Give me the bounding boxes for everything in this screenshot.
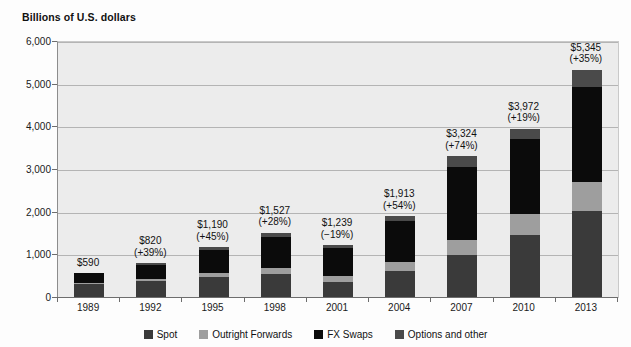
bar-growth-value: (+19%) bbox=[507, 112, 540, 124]
chart-legend: SpotOutright ForwardsFX SwapsOptions and… bbox=[0, 329, 631, 340]
bar-group[interactable] bbox=[261, 42, 291, 298]
bar-growth-value: (−19%) bbox=[321, 229, 354, 241]
x-axis-tick-mark bbox=[430, 298, 431, 302]
x-axis-tick-mark bbox=[617, 298, 618, 302]
legend-swatch-icon bbox=[395, 330, 404, 339]
x-axis-tick-label: 1995 bbox=[201, 302, 223, 313]
y-axis-tick-mark bbox=[52, 169, 57, 170]
bar-group[interactable] bbox=[510, 42, 540, 298]
x-axis-tick-mark bbox=[555, 298, 556, 302]
legend-item-label: Outright Forwards bbox=[212, 329, 292, 340]
legend-item[interactable]: Outright Forwards bbox=[199, 329, 292, 340]
bar-total-value: $1,239 bbox=[322, 217, 353, 228]
bar-value-label: $1,190(+45%) bbox=[196, 219, 229, 242]
bar-total-value: $3,972 bbox=[508, 101, 539, 112]
legend-item-label: FX Swaps bbox=[327, 329, 373, 340]
bar-segment[interactable] bbox=[510, 129, 540, 140]
legend-swatch-icon bbox=[314, 330, 323, 339]
x-axis-tick-label: 1998 bbox=[264, 302, 286, 313]
plot-inner bbox=[58, 42, 618, 298]
bar-stack bbox=[323, 245, 353, 298]
y-axis-tick-mark bbox=[52, 126, 57, 127]
bar-group[interactable] bbox=[572, 42, 602, 298]
bar-stack bbox=[199, 247, 229, 298]
bar-group[interactable] bbox=[199, 42, 229, 298]
x-axis-tick-label: 1989 bbox=[77, 302, 99, 313]
bar-segment[interactable] bbox=[261, 237, 291, 268]
bar-segment[interactable] bbox=[323, 248, 353, 276]
x-axis-tick-mark bbox=[119, 298, 120, 302]
bar-growth-value: (+39%) bbox=[134, 247, 167, 259]
x-axis-tick-label: 2010 bbox=[513, 302, 535, 313]
y-axis-tick-mark bbox=[52, 84, 57, 85]
chart-figure: Billions of U.S. dollars 01,0002,0003,00… bbox=[0, 0, 631, 347]
bar-segment[interactable] bbox=[385, 271, 415, 298]
bar-total-value: $1,913 bbox=[384, 188, 415, 199]
bar-group[interactable] bbox=[385, 42, 415, 298]
bar-group[interactable] bbox=[323, 42, 353, 298]
x-axis-tick-mark bbox=[368, 298, 369, 302]
x-axis-tick-mark bbox=[244, 298, 245, 302]
legend-item[interactable]: FX Swaps bbox=[314, 329, 373, 340]
bar-segment[interactable] bbox=[510, 139, 540, 214]
legend-item[interactable]: Options and other bbox=[395, 329, 488, 340]
x-axis-tick-label: 2007 bbox=[450, 302, 472, 313]
x-axis-line bbox=[57, 297, 618, 298]
bar-stack bbox=[572, 70, 602, 298]
bar-group[interactable] bbox=[136, 42, 166, 298]
y-axis: 01,0002,0003,0004,0005,0006,000 bbox=[0, 0, 51, 347]
bar-growth-value: (+45%) bbox=[196, 231, 229, 243]
bar-stack bbox=[136, 263, 166, 298]
bar-total-value: $590 bbox=[77, 257, 99, 268]
bar-segment[interactable] bbox=[572, 211, 602, 298]
bar-segment[interactable] bbox=[385, 221, 415, 262]
y-axis-tick-mark bbox=[52, 41, 57, 42]
bar-total-value: $5,345 bbox=[571, 42, 602, 53]
x-axis-tick-mark bbox=[57, 298, 58, 302]
bar-group[interactable] bbox=[447, 42, 477, 298]
y-axis-tick-label: 0 bbox=[3, 292, 51, 303]
bar-total-value: $1,190 bbox=[197, 219, 228, 230]
bar-growth-value: (+54%) bbox=[383, 200, 416, 212]
bar-value-label: $3,324(+74%) bbox=[445, 128, 478, 151]
bar-segment[interactable] bbox=[447, 167, 477, 240]
plot-area bbox=[57, 41, 619, 298]
bar-segment[interactable] bbox=[74, 284, 104, 298]
bar-segment[interactable] bbox=[447, 255, 477, 298]
y-axis-tick-label: 2,000 bbox=[3, 206, 51, 217]
bar-stack bbox=[385, 216, 415, 298]
bar-segment[interactable] bbox=[136, 265, 166, 279]
x-axis-tick-mark bbox=[306, 298, 307, 302]
legend-item[interactable]: Spot bbox=[144, 329, 178, 340]
bar-total-value: $820 bbox=[139, 235, 161, 246]
x-axis-tick-label: 2013 bbox=[575, 302, 597, 313]
bar-value-label: $1,527(+28%) bbox=[259, 205, 292, 228]
x-axis-tick-label: 2004 bbox=[388, 302, 410, 313]
bar-segment[interactable] bbox=[199, 250, 229, 273]
bar-value-label: $1,913(+54%) bbox=[383, 188, 416, 211]
bar-segment[interactable] bbox=[510, 214, 540, 234]
bar-segment[interactable] bbox=[261, 274, 291, 298]
y-axis-tick-label: 1,000 bbox=[3, 249, 51, 260]
bar-growth-value: (+74%) bbox=[445, 140, 478, 152]
bar-total-value: $1,527 bbox=[259, 205, 290, 216]
bar-stack bbox=[261, 233, 291, 298]
bar-stack bbox=[447, 156, 477, 298]
bar-segment[interactable] bbox=[136, 281, 166, 298]
bar-segment[interactable] bbox=[572, 87, 602, 182]
bar-stack bbox=[510, 129, 540, 298]
bar-segment[interactable] bbox=[385, 262, 415, 271]
bar-segment[interactable] bbox=[74, 273, 104, 283]
bar-segment[interactable] bbox=[510, 235, 540, 298]
bar-stack bbox=[74, 273, 104, 298]
bar-segment[interactable] bbox=[323, 282, 353, 299]
bar-segment[interactable] bbox=[572, 70, 602, 87]
y-axis-tick-label: 3,000 bbox=[3, 164, 51, 175]
bar-segment[interactable] bbox=[447, 156, 477, 166]
bar-segment[interactable] bbox=[199, 277, 229, 298]
bar-value-label: $1,239(−19%) bbox=[321, 217, 354, 240]
bar-growth-value: (+35%) bbox=[570, 53, 603, 65]
bar-segment[interactable] bbox=[572, 182, 602, 211]
bar-segment[interactable] bbox=[447, 240, 477, 255]
bar-value-label: $590 bbox=[77, 257, 99, 269]
